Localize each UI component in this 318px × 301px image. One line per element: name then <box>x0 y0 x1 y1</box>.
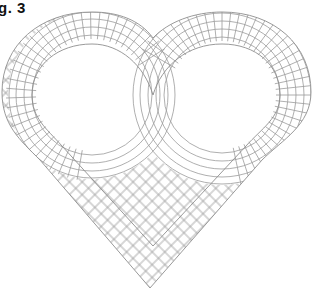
heart-mosaic-diagram <box>0 0 318 301</box>
tile-band <box>0 0 318 301</box>
